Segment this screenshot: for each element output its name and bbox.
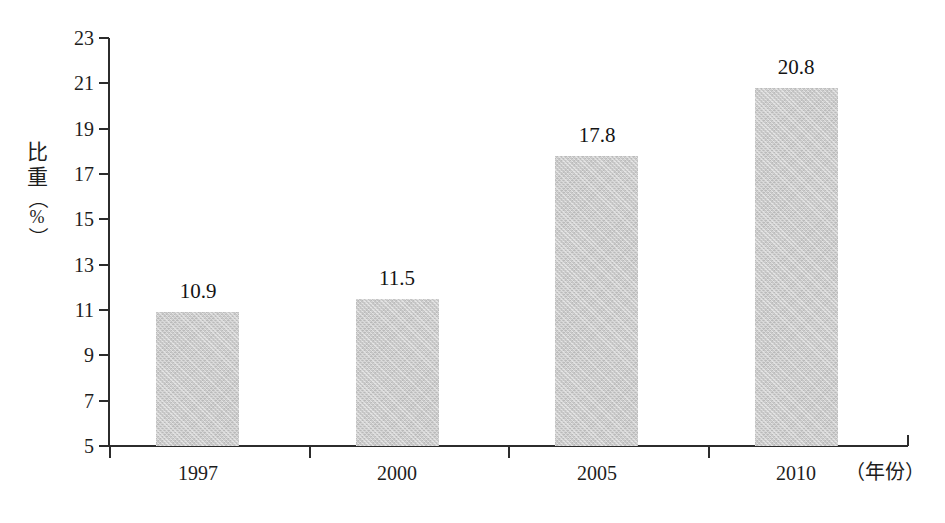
y-tick-23 (99, 37, 109, 39)
y-tick-21 (99, 82, 109, 84)
y-tick-11 (99, 309, 109, 311)
y-tick-label-19: 19 (50, 119, 94, 139)
y-tick-label-21: 21 (50, 73, 94, 93)
x-axis-title: （年份） (845, 461, 925, 483)
bar-value-label-2000: 11.5 (347, 268, 447, 289)
y-tick-label-wrap: 19 (42, 119, 94, 139)
x-tick-3 (708, 447, 710, 458)
bar-value-label-2010: 20.8 (746, 57, 846, 78)
bar-value-label-2005: 17.8 (547, 125, 647, 146)
y-tick-label-15: 15 (50, 209, 94, 229)
x-tick-4 (907, 435, 909, 446)
bar-2000 (356, 299, 439, 446)
y-tick-label-wrap: 23 (42, 28, 94, 48)
y-tick-label-13: 13 (50, 255, 94, 275)
y-tick-label-wrap: 13 (42, 255, 94, 275)
x-category-label-2010: 2010 (746, 462, 846, 484)
y-tick-label-17: 17 (50, 164, 94, 184)
x-category-label-2005: 2005 (547, 462, 647, 484)
y-tick-15 (99, 218, 109, 220)
y-tick-17 (99, 173, 109, 175)
y-tick-19 (99, 128, 109, 130)
y-tick-label-9: 9 (50, 345, 94, 365)
y-tick-label-wrap: 21 (42, 73, 94, 93)
bar-chart: 比 重 （ % ） 23211917151311975 10.911.517.8… (0, 0, 945, 523)
bar-1997 (156, 312, 239, 446)
y-tick-label-wrap: 15 (42, 209, 94, 229)
y-tick-label-7: 7 (50, 391, 94, 411)
y-axis-line (108, 38, 110, 447)
y-axis-title-char-1: 比 (20, 140, 54, 165)
y-tick-label-wrap: 11 (42, 300, 94, 320)
y-tick-label-wrap: 5 (42, 436, 94, 456)
y-tick-label-wrap: 7 (42, 391, 94, 411)
x-tick-2 (508, 447, 510, 458)
y-tick-9 (99, 354, 109, 356)
y-tick-label-5: 5 (50, 436, 94, 456)
x-tick-0 (109, 447, 111, 458)
x-category-label-1997: 1997 (148, 462, 248, 484)
x-tick-1 (309, 447, 311, 458)
bar-2010 (755, 88, 838, 446)
y-tick-label-wrap: 17 (42, 164, 94, 184)
y-tick-label-11: 11 (50, 300, 94, 320)
y-tick-label-23: 23 (50, 28, 94, 48)
y-tick-7 (99, 400, 109, 402)
bar-value-label-1997: 10.9 (148, 281, 248, 302)
y-tick-13 (99, 264, 109, 266)
y-tick-5 (99, 445, 109, 447)
bar-2005 (555, 156, 638, 446)
x-category-label-2000: 2000 (347, 462, 447, 484)
y-tick-label-wrap: 9 (42, 345, 94, 365)
